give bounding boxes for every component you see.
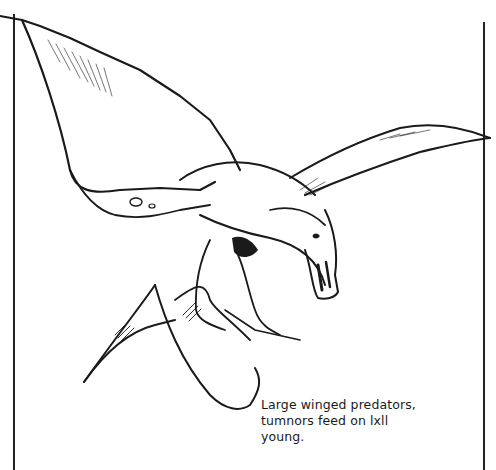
caption-text: Large winged predators, tumnors feed on … — [261, 397, 461, 445]
right-wing — [290, 125, 490, 195]
caption-line-3: young. — [261, 429, 461, 445]
caption-line-1: Large winged predators, — [261, 397, 461, 413]
lower-limbs — [84, 285, 259, 409]
caption-line-2: tumnors feed on lxll — [261, 413, 461, 429]
left-wing — [0, 16, 240, 217]
